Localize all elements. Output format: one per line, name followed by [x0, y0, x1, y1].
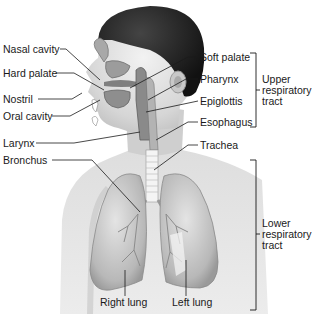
- respiratory-diagram: Nasal cavity Hard palate Nostril Oral ca…: [0, 0, 315, 314]
- label-oral-cavity: Oral cavity: [3, 110, 53, 122]
- label-larynx: Larynx: [3, 137, 35, 149]
- label-hard-palate: Hard palate: [3, 67, 57, 79]
- label-bronchus: Bronchus: [3, 154, 47, 166]
- label-epiglottis: Epiglottis: [200, 95, 243, 107]
- group-upper-line3: tract: [262, 96, 312, 107]
- label-right-lung: Right lung: [100, 296, 147, 308]
- group-lower-respiratory-tract: Lower respiratory tract: [262, 218, 312, 251]
- group-upper-respiratory-tract: Upper respiratory tract: [262, 74, 312, 107]
- label-nostril: Nostril: [3, 93, 33, 105]
- label-pharynx: Pharynx: [200, 73, 239, 85]
- label-nasal-cavity: Nasal cavity: [3, 43, 60, 55]
- label-esophagus: Esophagus: [200, 116, 253, 128]
- label-soft-palate: Soft palate: [200, 51, 250, 63]
- label-left-lung: Left lung: [172, 296, 212, 308]
- label-trachea: Trachea: [200, 139, 238, 151]
- group-lower-line3: tract: [262, 240, 312, 251]
